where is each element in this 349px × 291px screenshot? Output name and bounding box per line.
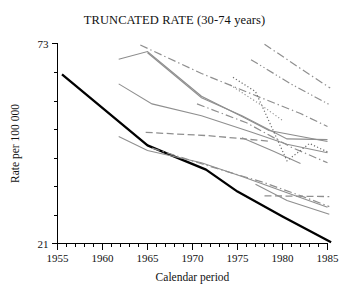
- x-axis-title: Calendar period: [156, 271, 230, 284]
- axis-frame: [58, 44, 328, 244]
- series-dashdot-upper-1964: [140, 45, 327, 127]
- series-dashdotdot-right-1976: [251, 60, 330, 105]
- series-dashed-long-horizontal: [146, 132, 269, 141]
- y-axis-title: Rate per 100 000: [9, 104, 22, 183]
- x-tick-label: 1960: [92, 252, 115, 264]
- chart-figure: TRUNCATED RATE (30-74 years) 19551960196…: [0, 0, 349, 291]
- series-grey-solid-right-1977: [256, 184, 330, 214]
- y-tick-label: 73: [38, 38, 50, 50]
- series-dashdot-upper-right-1978: [265, 44, 331, 88]
- series-grey-solid-short-1976: [242, 138, 301, 164]
- series-grey-solid-top-start-1965: [148, 53, 328, 140]
- x-tick-label: 1955: [47, 252, 70, 264]
- series-group: [62, 44, 331, 242]
- x-tick-label: 1980: [272, 252, 295, 264]
- series-dashdot-lower-1965: [152, 148, 329, 206]
- x-tick-label: 1975: [227, 252, 250, 264]
- series-reference-bold: [62, 74, 331, 242]
- x-tick-label: 1985: [317, 252, 340, 264]
- y-tick-label: 21: [38, 238, 49, 250]
- x-tick-label: 1970: [182, 252, 205, 264]
- series-dashdot-mid-1970: [197, 104, 328, 163]
- x-tick-label: 1965: [137, 252, 160, 264]
- series-grey-solid-mid-1962: [119, 84, 328, 153]
- plot-area: 19551960196519701975198019852173Calendar…: [0, 0, 349, 291]
- series-dashed-low-horizontal-right: [265, 196, 330, 197]
